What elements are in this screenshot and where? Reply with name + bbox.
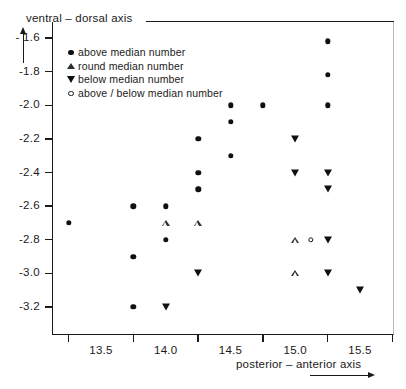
x-axis-tick-label: 14.0 xyxy=(154,344,178,356)
data-point-open-triangle xyxy=(291,270,299,276)
data-point-down-triangle xyxy=(291,135,299,142)
y-axis-tick-label: -3.0 xyxy=(19,266,40,278)
legend-item: above median number xyxy=(64,46,223,60)
legend-item-label: above / below median number xyxy=(78,87,223,101)
legend-item: above / below median number xyxy=(64,87,223,101)
data-point-down-triangle xyxy=(324,236,332,243)
y-axis-tick xyxy=(45,239,52,240)
x-axis-tick xyxy=(68,335,69,342)
y-axis-tick-label: -2.2 xyxy=(19,132,40,144)
legend: above median numberround median numberbe… xyxy=(64,46,223,100)
data-point-down-triangle xyxy=(324,270,332,277)
y-axis-tick-label: -2.4 xyxy=(19,166,40,178)
legend-item-label: round median number xyxy=(78,60,184,74)
y-axis-tick-label: -2.8 xyxy=(19,233,40,245)
x-axis-tick xyxy=(262,335,263,342)
x-axis-tick xyxy=(392,335,393,342)
y-axis-tick-label: -2.6 xyxy=(19,199,40,211)
data-point-open-triangle xyxy=(162,220,170,226)
legend-filled-circle-icon xyxy=(64,46,78,60)
x-axis-tick-label: 14.5 xyxy=(219,344,243,356)
y-axis-tick-label: -2.0 xyxy=(19,98,40,110)
legend-item-label: above median number xyxy=(78,46,185,60)
y-axis-tick xyxy=(45,273,52,274)
y-axis-tick xyxy=(45,306,52,307)
legend-item: below median number xyxy=(64,73,223,87)
legend-open-triangle-icon xyxy=(64,60,78,74)
y-axis-tick-label: -1.8 xyxy=(19,65,40,77)
x-axis-tick xyxy=(327,335,328,342)
data-point-down-triangle xyxy=(324,186,332,193)
legend-open-circle-icon xyxy=(64,87,78,101)
data-point-open-triangle xyxy=(291,237,299,243)
data-point-down-triangle xyxy=(194,270,202,277)
data-point-down-triangle xyxy=(291,169,299,176)
y-axis-tick-label: -3.2 xyxy=(19,300,40,312)
x-axis-tick xyxy=(133,335,134,342)
legend-down-triangle-icon xyxy=(64,73,78,87)
data-point-down-triangle xyxy=(324,169,332,176)
x-axis-tick-label: 15.5 xyxy=(348,344,372,356)
x-axis-tick xyxy=(197,335,198,342)
y-axis-tick xyxy=(45,138,52,139)
x-axis-title: posterior – anterior axis xyxy=(236,358,361,370)
y-axis-tick xyxy=(45,205,52,206)
y-axis-tick xyxy=(45,172,52,173)
x-axis-direction-arrow-icon xyxy=(310,375,368,376)
y-axis-tick xyxy=(45,71,52,72)
data-point-down-triangle xyxy=(356,287,364,294)
data-point-down-triangle xyxy=(162,304,170,311)
legend-item: round median number xyxy=(64,60,223,74)
y-axis-tick xyxy=(45,105,52,106)
x-axis-tick-label: 15.0 xyxy=(283,344,307,356)
x-axis-tick-label: 13.5 xyxy=(89,344,113,356)
scatter-plot-figure: ventral – dorsal axis - 1.6-1.8-2.0-2.2-… xyxy=(0,0,406,389)
legend-item-label: below median number xyxy=(78,73,184,87)
y-axis-tick xyxy=(45,37,52,38)
y-axis-tick-label: - 1.6 xyxy=(15,31,40,43)
data-point-open-triangle xyxy=(194,220,202,226)
